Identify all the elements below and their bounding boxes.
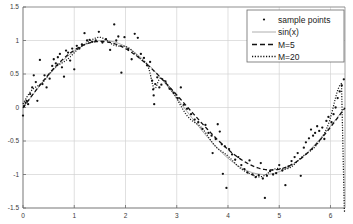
sample-point xyxy=(36,100,38,102)
sample-point xyxy=(86,39,88,41)
sample-point xyxy=(88,39,90,41)
sample-point xyxy=(243,168,245,170)
sample-point xyxy=(305,141,307,143)
sample-point xyxy=(29,93,31,95)
legend-marker-sample-points xyxy=(263,18,265,20)
sample-point xyxy=(231,153,233,155)
sine-regression-chart: 0123456 1.510.50-0.5-1-1.5 sample points… xyxy=(0,0,353,224)
sample-point xyxy=(310,128,312,130)
sample-point xyxy=(341,84,343,86)
sample-point xyxy=(316,125,318,127)
sample-point xyxy=(180,86,182,88)
sample-point xyxy=(67,51,69,53)
sample-point xyxy=(330,121,332,123)
sample-point xyxy=(255,176,257,178)
sample-point xyxy=(327,116,329,118)
sample-point xyxy=(134,33,136,35)
sample-point xyxy=(339,90,341,92)
sample-point xyxy=(225,187,227,189)
sample-point xyxy=(61,66,63,68)
sample-point xyxy=(22,114,24,116)
sample-point xyxy=(53,58,55,60)
sample-point xyxy=(117,35,119,37)
sample-point xyxy=(287,165,289,167)
sample-point xyxy=(153,103,155,105)
legend-label-sin: sin(x) xyxy=(278,27,299,37)
sample-point xyxy=(51,65,53,67)
sample-point xyxy=(246,171,248,173)
sample-point xyxy=(105,38,107,40)
sample-point xyxy=(300,175,302,177)
sample-point xyxy=(207,132,209,134)
sample-point xyxy=(45,86,47,88)
sample-point xyxy=(266,175,268,177)
sample-point xyxy=(210,134,212,136)
sample-point xyxy=(101,41,103,43)
legend-label-m5: M=5 xyxy=(278,40,295,50)
sample-point xyxy=(98,31,100,33)
sample-point xyxy=(49,78,51,80)
sample-point xyxy=(25,100,27,102)
legend-label-sample-points: sample points xyxy=(278,15,330,25)
sample-point xyxy=(297,152,299,154)
sample-point xyxy=(219,130,221,132)
sample-point xyxy=(237,156,239,158)
sample-point xyxy=(248,159,250,161)
x-tick-label: 2 xyxy=(124,212,128,219)
sample-point xyxy=(194,118,196,120)
sample-point xyxy=(325,120,327,122)
y-tick-label: -0.5 xyxy=(8,137,20,144)
sample-point xyxy=(154,83,156,85)
sample-point xyxy=(146,64,148,66)
sample-point xyxy=(173,92,175,94)
y-tick-label: -1 xyxy=(13,171,19,178)
sample-point xyxy=(197,121,199,123)
sample-point xyxy=(160,84,162,86)
sample-point xyxy=(143,57,145,59)
sample-point xyxy=(158,86,160,88)
sample-point xyxy=(31,86,33,88)
sample-point xyxy=(303,147,305,149)
sample-point xyxy=(81,43,83,45)
sample-point xyxy=(57,56,59,58)
sample-point xyxy=(290,160,292,162)
sample-point xyxy=(91,41,93,43)
sample-point xyxy=(284,184,286,186)
sample-point xyxy=(186,108,188,110)
sample-point xyxy=(149,61,151,63)
sample-point xyxy=(177,97,179,99)
y-tick-label: 1.5 xyxy=(10,3,19,10)
sample-point xyxy=(120,72,122,74)
sample-point xyxy=(308,137,310,139)
sample-point xyxy=(269,170,271,172)
sample-point xyxy=(222,173,224,175)
sample-point xyxy=(127,48,129,50)
y-tick-label: 0 xyxy=(15,104,19,111)
sample-point xyxy=(83,32,85,34)
sample-point xyxy=(234,159,236,161)
sample-point xyxy=(115,39,117,41)
y-tick-label: 0.5 xyxy=(10,70,19,77)
y-tick-label: -1.5 xyxy=(8,204,20,211)
sample-point xyxy=(312,134,314,136)
x-tick-label: 6 xyxy=(329,212,333,219)
sample-point xyxy=(33,74,35,76)
sample-point xyxy=(59,53,61,55)
sample-point xyxy=(95,39,97,41)
sample-point xyxy=(55,62,57,64)
sample-point xyxy=(264,197,266,199)
sample-point xyxy=(215,138,217,140)
sample-point xyxy=(204,124,206,126)
sample-point xyxy=(140,53,142,55)
sample-point xyxy=(221,143,223,145)
sample-point xyxy=(123,36,125,38)
sample-point xyxy=(156,76,158,78)
sample-point xyxy=(211,152,213,154)
y-tick-label: 1 xyxy=(15,37,19,44)
chart-figure: 0123456 1.510.50-0.5-1-1.5 sample points… xyxy=(0,0,353,224)
sample-point xyxy=(251,173,253,175)
sample-point xyxy=(224,145,226,147)
sample-point xyxy=(228,148,230,150)
sample-point xyxy=(152,88,154,90)
sample-point xyxy=(258,174,260,176)
